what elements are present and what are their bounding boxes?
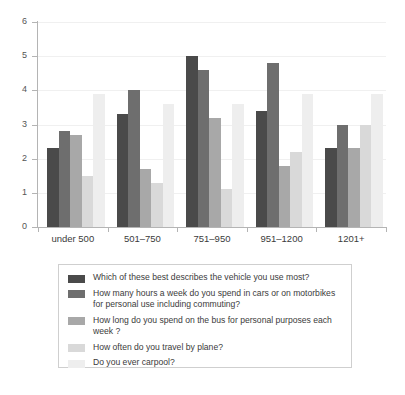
- x-axis-line: [37, 227, 386, 228]
- bar: [198, 70, 210, 227]
- bar: [82, 176, 94, 227]
- x-tick-mark: [38, 227, 39, 232]
- bar: [163, 104, 175, 227]
- y-tick-label: 4: [0, 85, 27, 94]
- x-tick-mark: [316, 227, 317, 232]
- legend-item[interactable]: How many hours a week do you spend in ca…: [68, 288, 343, 310]
- x-tick-label: 751–950: [177, 234, 247, 244]
- y-tick-mark: [32, 159, 37, 160]
- bar: [360, 125, 372, 228]
- y-tick-label: 2: [0, 154, 27, 163]
- x-tick-mark: [177, 227, 178, 232]
- legend-swatch-icon: [68, 275, 85, 283]
- bar: [371, 94, 383, 227]
- bar: [279, 166, 291, 228]
- bar: [256, 111, 268, 227]
- bar: [93, 94, 105, 227]
- bar-group: [256, 22, 317, 227]
- plot-area: [38, 22, 386, 227]
- legend-swatch-icon: [68, 360, 85, 368]
- x-tick-mark: [247, 227, 248, 232]
- bar: [290, 152, 302, 227]
- bar: [267, 63, 279, 227]
- legend-swatch-icon: [68, 317, 85, 325]
- bar: [209, 118, 221, 227]
- bar-group: [47, 22, 108, 227]
- bar: [59, 131, 71, 227]
- legend-swatch-icon: [68, 290, 85, 298]
- bar: [302, 94, 314, 227]
- legend-item-label: Do you ever carpool?: [93, 357, 175, 368]
- legend-item-label: How long do you spend on the bus for per…: [93, 315, 343, 337]
- legend-item-label: Which of these best describes the vehicl…: [93, 272, 309, 283]
- x-tick-label: 951–1200: [247, 234, 317, 244]
- bar: [337, 125, 349, 228]
- bar: [151, 183, 163, 227]
- chart-legend: Which of these best describes the vehicl…: [58, 264, 352, 368]
- legend-item[interactable]: How often do you travel by plane?: [68, 342, 343, 353]
- y-tick-label: 3: [0, 120, 27, 129]
- bar: [140, 169, 152, 227]
- x-tick-label: 1201+: [316, 234, 386, 244]
- legend-item-label: How many hours a week do you spend in ca…: [93, 288, 343, 310]
- y-tick-mark: [32, 193, 37, 194]
- y-tick-label: 0: [0, 222, 27, 231]
- bar: [348, 148, 360, 227]
- bar: [232, 104, 244, 227]
- x-tick-mark: [386, 227, 387, 232]
- y-tick-mark: [32, 125, 37, 126]
- legend-item[interactable]: Do you ever carpool?: [68, 357, 343, 368]
- bar: [221, 189, 233, 227]
- y-tick-mark: [32, 90, 37, 91]
- x-tick-label: 501–750: [108, 234, 178, 244]
- bar-group: [325, 22, 386, 227]
- y-tick-mark: [32, 56, 37, 57]
- bar: [325, 148, 337, 227]
- bar: [128, 90, 140, 227]
- legend-item[interactable]: How long do you spend on the bus for per…: [68, 315, 343, 337]
- y-tick-label: 5: [0, 51, 27, 60]
- legend-swatch-icon: [68, 344, 85, 352]
- bar-group: [186, 22, 247, 227]
- y-tick-mark: [32, 22, 37, 23]
- bar: [47, 148, 59, 227]
- y-tick-mark: [32, 227, 37, 228]
- legend-item-label: How often do you travel by plane?: [93, 342, 223, 353]
- legend-item[interactable]: Which of these best describes the vehicl…: [68, 272, 343, 283]
- y-tick-label: 6: [0, 17, 27, 26]
- bar: [117, 114, 129, 227]
- bar-group: [117, 22, 178, 227]
- x-tick-mark: [108, 227, 109, 232]
- grouped-bar-chart: 0123456 under 500501–750751–950951–12001…: [0, 0, 405, 258]
- y-tick-label: 1: [0, 188, 27, 197]
- x-tick-label: under 500: [38, 234, 108, 244]
- bar: [186, 56, 198, 227]
- bar: [70, 135, 82, 227]
